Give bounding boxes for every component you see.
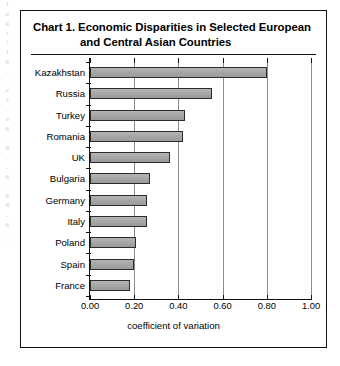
- margin-glyph: 8: [0, 125, 14, 135]
- margin-glyph: |: [0, 38, 14, 48]
- category-axis-labels: KazakhstanRussiaTurkeyRomaniaUKBulgariaG…: [21, 62, 89, 296]
- margin-glyph: .: [0, 154, 14, 164]
- category-label: Germany: [21, 195, 89, 206]
- chart-title: Chart 1. Economic Disparities in Selecte…: [33, 20, 314, 49]
- page-margin-artifact: 1agt|16..es.e8.8..8.68.8..: [0, 0, 14, 366]
- bar: [90, 110, 185, 121]
- bar-row: [90, 237, 311, 248]
- chart-title-line-2: and Central Asian Countries: [33, 35, 314, 50]
- x-axis-title: coefficient of variation: [21, 320, 326, 331]
- margin-glyph: a: [0, 10, 14, 20]
- margin-glyph: .: [0, 106, 14, 116]
- x-axis-tick-label: 0.20: [125, 300, 143, 311]
- bar: [90, 280, 130, 291]
- gridline: [311, 58, 312, 296]
- bar: [90, 152, 170, 163]
- bar-row: [90, 152, 311, 163]
- margin-glyph: 1: [0, 48, 14, 58]
- margin-glyph: .: [0, 182, 14, 192]
- x-axis-tick-label: 0.40: [169, 300, 187, 311]
- x-axis-tick-top: [311, 58, 312, 63]
- category-label: Bulgaria: [21, 173, 89, 184]
- bar-row: [90, 131, 311, 142]
- bar: [90, 67, 267, 78]
- chart-figure-box: Chart 1. Economic Disparities in Selecte…: [20, 10, 327, 348]
- bar: [90, 173, 150, 184]
- category-label: Turkey: [21, 110, 89, 121]
- margin-glyph: 8: [0, 201, 14, 211]
- category-label: Italy: [21, 216, 89, 227]
- margin-glyph: .: [0, 240, 14, 250]
- bar: [90, 88, 212, 99]
- bar-row: [90, 173, 311, 184]
- margin-glyph: g: [0, 19, 14, 29]
- plot-wrapper: KazakhstanRussiaTurkeyRomaniaUKBulgariaG…: [21, 62, 326, 324]
- x-axis-tick-label: 1.00: [302, 300, 320, 311]
- bar: [90, 131, 183, 142]
- margin-glyph: .: [0, 134, 14, 144]
- x-axis-tick-label: 0.80: [258, 300, 276, 311]
- x-axis-tick-label: 0.60: [213, 300, 231, 311]
- margin-glyph: 6: [0, 192, 14, 202]
- margin-glyph: 6: [0, 58, 14, 68]
- chart-title-line-1: Chart 1. Economic Disparities in Selecte…: [33, 20, 314, 35]
- bar: [90, 237, 136, 248]
- margin-glyph: 8: [0, 221, 14, 231]
- bar-row: [90, 67, 311, 78]
- bar: [90, 259, 134, 270]
- title-divider: [31, 54, 316, 55]
- bar-row: [90, 259, 311, 270]
- bar-row: [90, 88, 311, 99]
- margin-glyph: s: [0, 96, 14, 106]
- x-axis-tick-labels: 0.000.200.400.600.801.00: [90, 300, 311, 314]
- margin-glyph: .: [0, 163, 14, 173]
- category-label: UK: [21, 152, 89, 163]
- x-axis-tick-label: 0.00: [81, 300, 99, 311]
- margin-glyph: .: [0, 230, 14, 240]
- category-label: Romania: [21, 131, 89, 142]
- margin-glyph: 1: [0, 0, 14, 10]
- category-label: Poland: [21, 237, 89, 248]
- bar-row: [90, 216, 311, 227]
- bar-row: [90, 280, 311, 291]
- bar-row: [90, 195, 311, 206]
- bar: [90, 216, 147, 227]
- margin-glyph: e: [0, 115, 14, 125]
- category-label: France: [21, 280, 89, 291]
- category-label: Spain: [21, 259, 89, 270]
- margin-glyph: .: [0, 211, 14, 221]
- bar: [90, 195, 147, 206]
- category-label: Russia: [21, 88, 89, 99]
- margin-glyph: 8: [0, 173, 14, 183]
- margin-glyph: t: [0, 29, 14, 39]
- margin-glyph: 8: [0, 144, 14, 154]
- margin-glyph: .: [0, 67, 14, 77]
- margin-glyph: .: [0, 77, 14, 87]
- bar-row: [90, 110, 311, 121]
- y-axis-tick: [86, 296, 91, 297]
- plot-area: [90, 62, 311, 296]
- category-label: Kazakhstan: [21, 67, 89, 78]
- margin-glyph: e: [0, 86, 14, 96]
- bar-series: [90, 62, 311, 296]
